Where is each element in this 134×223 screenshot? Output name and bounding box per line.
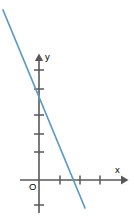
plot-background [0,0,134,223]
origin-label: O [29,182,36,192]
coordinate-plane-figure: y x O [0,0,134,223]
y-axis-label: y [45,52,50,62]
graph-canvas [0,0,134,223]
x-axis-label: x [115,165,120,175]
